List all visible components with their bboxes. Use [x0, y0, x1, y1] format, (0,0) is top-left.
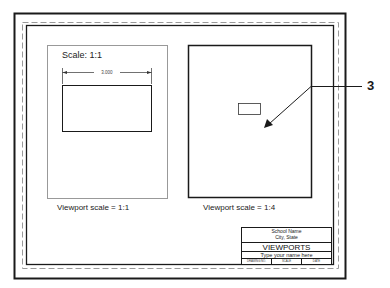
callout-number: 3 — [367, 78, 374, 93]
left-viewport-caption: Viewport scale = 1:1 — [57, 203, 129, 212]
right-viewport-caption: Viewport scale = 1:4 — [203, 203, 275, 212]
right-viewport-frame[interactable] — [189, 46, 312, 198]
scale-label: Scale: 1:1 — [62, 50, 102, 60]
student-name-field[interactable]: Type your name here — [241, 252, 332, 259]
dimension-value: 3.000 — [94, 69, 120, 76]
callout-arrowhead — [264, 119, 273, 128]
drawing-title: VIEWPORTS — [241, 243, 332, 252]
title-block: School Name City, State VIEWPORTS Type y… — [241, 227, 332, 265]
drawing-sheet: Scale: 1:1 3.000 Viewport scale = 1:1 Vi… — [0, 0, 390, 288]
title-block-cell-date: DATE — [302, 259, 331, 264]
dimension-arrow-right — [147, 71, 152, 74]
title-block-cell-scale: SCALE — [272, 259, 301, 264]
city-state: City, State — [241, 234, 332, 240]
callout-leader-arrow-line — [269, 87, 311, 125]
object-rectangle-1to4 — [239, 104, 261, 115]
dimension-arrow-left — [63, 71, 68, 74]
object-rectangle-1to1 — [63, 86, 152, 132]
title-block-cell-drawing-no: DRAWING NO. — [242, 259, 271, 264]
